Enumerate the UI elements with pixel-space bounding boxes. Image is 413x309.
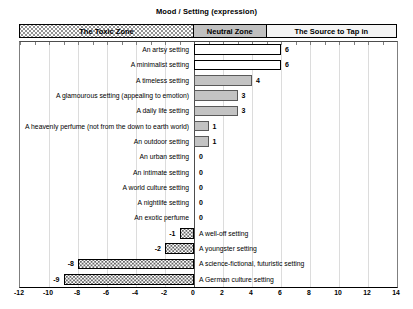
value-label: -1	[169, 226, 175, 241]
category-label: A well-off setting	[199, 226, 248, 241]
category-label: A German culture setting	[199, 272, 274, 287]
chart: Mood / Setting (expression) The Toxic Zo…	[0, 0, 413, 309]
x-tick-label: 0	[191, 289, 195, 296]
value-label: 1	[213, 134, 217, 149]
bar	[165, 243, 194, 254]
gridline	[339, 42, 340, 287]
value-label: 4	[256, 73, 260, 88]
value-label: 0	[199, 195, 203, 210]
axis-minor-tick	[281, 42, 282, 45]
axis-minor-tick	[49, 42, 50, 45]
zone-header: Neutral Zone	[193, 24, 267, 38]
category-label: A minimalist setting	[131, 57, 189, 72]
bar	[180, 228, 195, 239]
axis-minor-tick	[354, 42, 355, 45]
axis-minor-tick	[35, 42, 36, 45]
bar	[194, 121, 209, 132]
axis-minor-tick	[339, 42, 340, 45]
x-tick-label: 8	[307, 289, 311, 296]
category-label: A science-fictional, futuristic setting	[199, 256, 304, 271]
value-label: 3	[242, 103, 246, 118]
x-tick-label: 4	[249, 289, 253, 296]
category-label: A world culture setting	[123, 180, 190, 195]
x-axis: -12-10-8-6-4-202468101214	[19, 289, 396, 301]
x-tick-label: 14	[392, 289, 400, 296]
bar	[194, 75, 252, 86]
bar	[194, 136, 209, 147]
value-label: 0	[199, 149, 203, 164]
x-tick-label: 10	[334, 289, 342, 296]
value-label: 6	[285, 57, 289, 72]
zone-band: The Toxic ZoneNeutral ZoneThe Source to …	[19, 24, 398, 38]
bar	[194, 60, 281, 71]
axis-minor-tick	[383, 42, 384, 45]
value-label: -8	[68, 256, 74, 271]
category-label: An outdoor setting	[134, 134, 189, 149]
chart-title: Mood / Setting (expression)	[0, 7, 413, 16]
gridline	[281, 42, 282, 287]
axis-minor-tick	[296, 42, 297, 45]
category-label: A heavenly perfume (not from the down to…	[25, 119, 189, 134]
gridline	[368, 42, 369, 287]
gridline	[107, 42, 108, 287]
x-tick-label: -10	[43, 289, 53, 296]
gridline	[49, 42, 50, 287]
bar	[78, 259, 194, 270]
x-tick-label: -4	[132, 289, 138, 296]
plot-area: An artsy setting6A minimalist setting6A …	[19, 41, 398, 288]
category-label: An intimate setting	[133, 165, 189, 180]
category-label: An urban setting	[140, 149, 190, 164]
value-label: -9	[53, 272, 59, 287]
axis-minor-tick	[78, 42, 79, 45]
axis-minor-tick	[310, 42, 311, 45]
axis-minor-tick	[136, 42, 137, 45]
value-label: 3	[242, 88, 246, 103]
category-label: A glamourous setting (appealing to emoti…	[56, 88, 189, 103]
category-label: An exotic perfume	[134, 210, 189, 225]
value-label: -2	[155, 241, 161, 256]
zone-header: The Toxic Zone	[19, 24, 194, 38]
axis-minor-tick	[325, 42, 326, 45]
x-tick-label: 12	[363, 289, 371, 296]
x-tick-label: -2	[161, 289, 167, 296]
axis-minor-tick	[107, 42, 108, 45]
x-tick-label: -6	[103, 289, 109, 296]
gridline	[78, 42, 79, 287]
category-label: A youngster setting	[199, 241, 257, 256]
category-label: An artsy setting	[142, 42, 189, 57]
axis-minor-tick	[64, 42, 65, 45]
x-tick-label: 2	[220, 289, 224, 296]
axis-minor-tick	[397, 42, 398, 45]
axis-minor-tick	[122, 42, 123, 45]
bar	[194, 44, 281, 55]
axis-minor-tick	[20, 42, 21, 45]
value-label: 6	[285, 42, 289, 57]
bar	[64, 274, 195, 285]
value-label: 0	[199, 180, 203, 195]
axis-minor-tick	[368, 42, 369, 45]
gridline	[310, 42, 311, 287]
category-label: A timeless setting	[136, 73, 189, 88]
x-tick-label: -8	[74, 289, 80, 296]
x-tick-label: 6	[278, 289, 282, 296]
category-label: A daily life setting	[136, 103, 189, 118]
bar	[194, 106, 238, 117]
zone-header: The Source to Tap in	[266, 24, 398, 38]
category-label: A nightlife setting	[138, 195, 189, 210]
x-tick-label: -12	[14, 289, 24, 296]
axis-minor-tick	[93, 42, 94, 45]
bar	[194, 90, 238, 101]
value-label: 0	[199, 165, 203, 180]
value-label: 1	[213, 119, 217, 134]
value-label: 0	[199, 210, 203, 225]
